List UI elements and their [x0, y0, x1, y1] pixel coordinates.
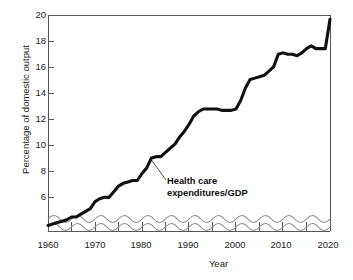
annotation-leader-line [150, 158, 166, 180]
chart-plot-svg [0, 0, 353, 280]
data-series-line [48, 19, 330, 225]
axis-break-wave [48, 216, 330, 231]
y-tick-marks [48, 15, 54, 197]
chart-container: Percentage of domestic output 20 18 16 1… [0, 0, 353, 280]
